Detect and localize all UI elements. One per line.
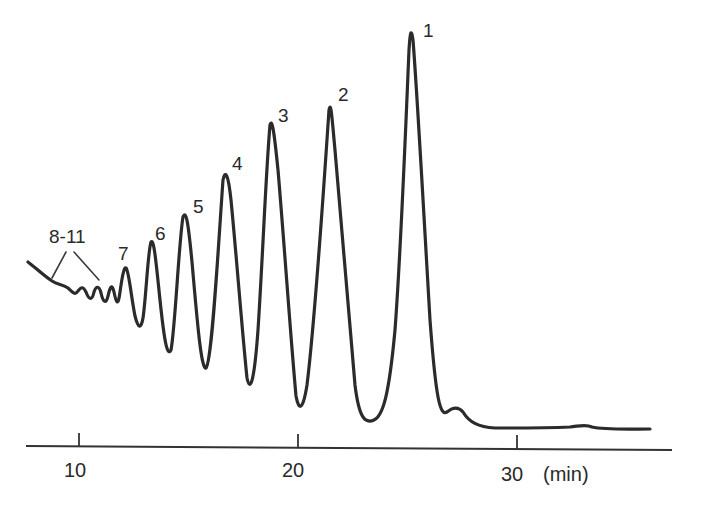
x-tick-label-10: 10 <box>64 459 86 481</box>
x-tick-label-20: 20 <box>282 459 304 481</box>
x-axis-unit-label: (min) <box>543 463 589 485</box>
peak-label-4: 4 <box>232 153 243 174</box>
peak-label-5: 5 <box>193 196 204 217</box>
annotation-line-8-11-right <box>74 252 99 280</box>
x-axis-line <box>26 446 672 450</box>
peak-label-1: 1 <box>423 20 434 41</box>
peak-label-2: 2 <box>338 84 349 105</box>
peak-label-6: 6 <box>155 223 166 244</box>
peak-label-7: 7 <box>118 243 129 264</box>
x-tick-label-30: 30 <box>501 463 523 485</box>
peak-label-8-11: 8-11 <box>49 226 86 247</box>
peak-label-3: 3 <box>278 105 289 126</box>
annotation-line-8-11-left <box>52 252 66 278</box>
chromatogram-chart: 10 20 30 (min) 1 2 3 4 5 6 7 8-11 <box>0 0 702 506</box>
